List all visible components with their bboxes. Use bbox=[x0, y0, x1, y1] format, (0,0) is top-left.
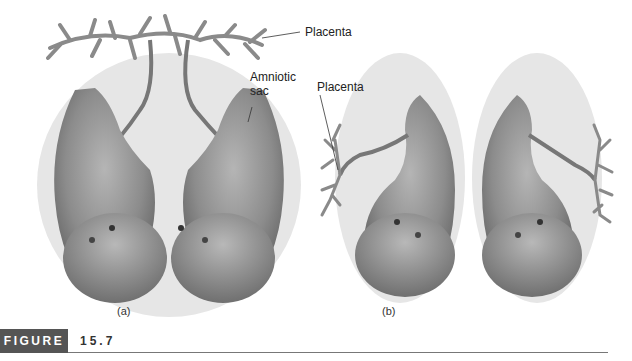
label-placenta-b: Placenta bbox=[317, 80, 364, 94]
panel-b-caption: (b) bbox=[382, 305, 395, 317]
panel-a-caption: (a) bbox=[117, 305, 130, 317]
panel-a-diagram bbox=[37, 16, 301, 317]
caption-rule bbox=[68, 352, 608, 353]
twins-illustration bbox=[0, 0, 632, 330]
placenta-shared bbox=[48, 16, 265, 58]
label-placenta-a: Placenta bbox=[305, 25, 352, 39]
figure-label: FIGURE bbox=[0, 329, 68, 353]
figure-number: 15.7 bbox=[80, 334, 115, 348]
label-amniotic-sac-a: Amniotic sac bbox=[250, 70, 296, 98]
